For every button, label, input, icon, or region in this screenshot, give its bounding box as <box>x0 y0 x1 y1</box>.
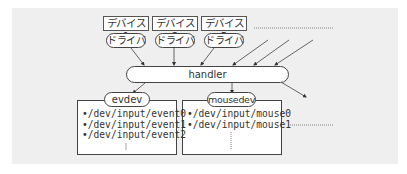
driver-label: ドライバ <box>205 35 243 46</box>
handler-label: handler <box>188 69 226 80</box>
mousedev-label-text: mousedev <box>208 94 255 105</box>
driver-pill-3: ドライバ <box>204 33 244 48</box>
handler-bar: handler <box>126 66 289 83</box>
device-box-1: デバイス1 <box>103 16 149 31</box>
driver-label: ドライバ <box>107 35 145 46</box>
evdev-label: evdev <box>104 92 150 107</box>
mousedev-label: mousedev <box>207 92 256 107</box>
evdev-path-2: •/dev/input/event2 <box>82 130 186 141</box>
evdev-paths: •/dev/input/event0•/dev/input/event1•/de… <box>82 109 186 141</box>
driver-label: ドライバ <box>156 35 194 46</box>
mousedev-path-1: •/dev/input/mouse1 <box>187 120 291 131</box>
driver-pill-2: ドライバ <box>155 33 195 48</box>
mousedev-path-0: •/dev/input/mouse0 <box>187 109 291 120</box>
device-box-2: デバイス2 <box>152 16 198 31</box>
evdev-path-0: •/dev/input/event0 <box>82 109 186 120</box>
evdev-label-text: evdev <box>112 94 143 105</box>
device-box-3: デバイス3 <box>201 16 247 31</box>
driver-pill-1: ドライバ <box>106 33 146 48</box>
mousedev-paths: •/dev/input/mouse0•/dev/input/mouse1 <box>187 109 291 130</box>
